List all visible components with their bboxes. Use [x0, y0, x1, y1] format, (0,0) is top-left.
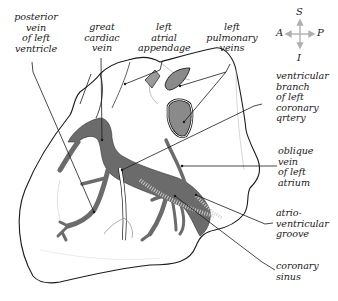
compass-inferior: I [297, 52, 301, 63]
label-oblique-vein-of-left-atrium: oblique vein of left atrium [278, 146, 313, 188]
label-posterior-vein-of-left-ventricle: posterior vein of left ventricle [14, 12, 58, 54]
orientation-compass-arrows [286, 20, 314, 48]
compass-posterior: P [317, 27, 324, 38]
label-coronary-sinus: coronary sinus [276, 261, 319, 282]
compass-superior: S [296, 6, 303, 17]
label-left-pulmonary-veins: left pulmonary veins [206, 22, 258, 54]
compass-anterior: A [276, 27, 283, 38]
label-great-cardiac-vein: great cardiac vein [82, 22, 122, 54]
heart-diagram: S I A P posterior vein of left ventricle… [0, 0, 338, 301]
label-ventricular-branch-of-left-coronary-artery: ventricular branch of left coronary qrte… [276, 71, 329, 124]
label-left-atrial-appendage: left atrial appendage [138, 22, 190, 54]
label-atrioventricular-groove: atrio- ventricular groove [276, 208, 329, 240]
